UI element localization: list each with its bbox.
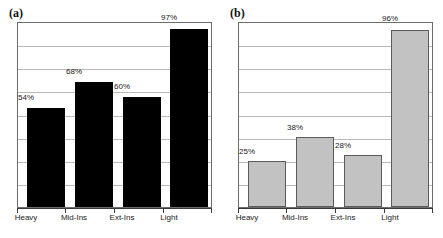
panel-b-label: (b) [230, 6, 245, 20]
bar-group-ext-ins [344, 23, 382, 207]
value-label-mid-ins: 38% [265, 123, 325, 132]
bar-light [391, 30, 429, 207]
bar-heavy [27, 108, 65, 207]
bar-group-mid-ins [296, 23, 334, 207]
value-label-heavy: 54% [0, 93, 56, 102]
bar-light [170, 29, 208, 207]
value-label-mid-ins: 68% [44, 67, 104, 76]
bar-group-ext-ins [123, 23, 161, 207]
x-tick [211, 208, 212, 213]
bar-group-mid-ins [75, 23, 113, 207]
value-label-light: 96% [360, 14, 420, 23]
bar-group-heavy [248, 23, 286, 207]
bar-ext-ins [344, 155, 382, 207]
panel-a: (a) [0, 0, 221, 238]
bar-mid-ins [75, 82, 113, 207]
value-label-light: 97% [139, 13, 199, 22]
figure-two-panel-bar-charts: (a) [0, 0, 443, 238]
panel-b-plot-area [238, 22, 433, 208]
x-tick [432, 208, 433, 213]
category-label-light: Light [139, 213, 199, 223]
panel-a-plot-area [17, 22, 212, 208]
bar-group-heavy [27, 23, 65, 207]
panel-a-bars [18, 23, 211, 207]
value-label-heavy: 25% [217, 147, 277, 156]
category-label-light: Light [360, 213, 420, 223]
bar-heavy [248, 161, 286, 207]
value-label-ext-ins: 60% [92, 82, 152, 91]
bar-ext-ins [123, 97, 161, 207]
bar-group-light [170, 23, 208, 207]
panel-a-label: (a) [9, 6, 23, 20]
value-label-ext-ins: 28% [313, 141, 373, 150]
panel-b: (b) [221, 0, 442, 238]
panel-b-bars [239, 23, 432, 207]
bar-group-light [391, 23, 429, 207]
